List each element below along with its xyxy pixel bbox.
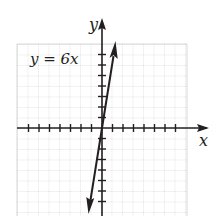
equation-label: y = 6x xyxy=(29,50,79,68)
linear-function-graph: x y xyxy=(0,0,218,216)
x-axis-label: x xyxy=(199,131,208,150)
y-axis-label: y xyxy=(88,15,99,34)
graph-canvas: x y xyxy=(0,0,218,216)
